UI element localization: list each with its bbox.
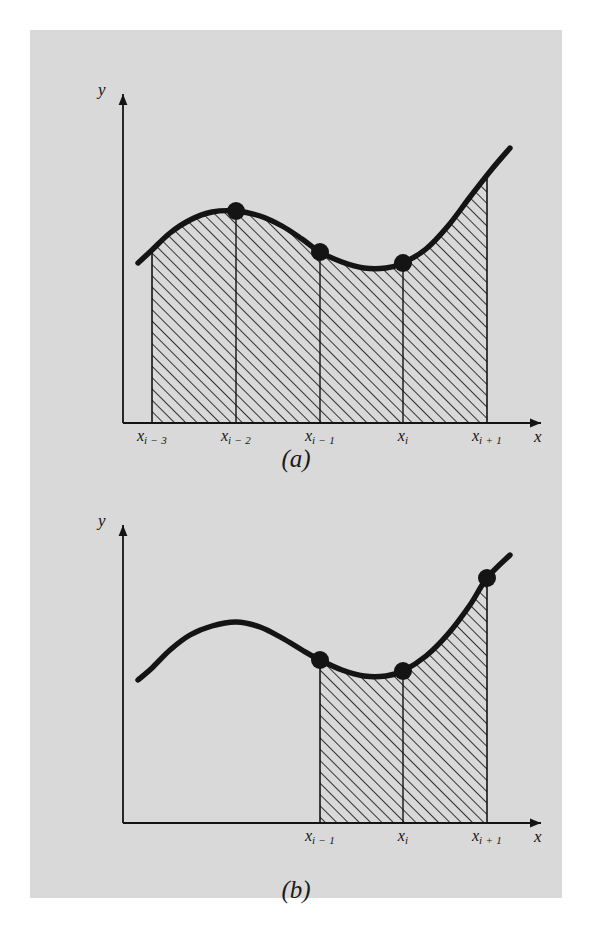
axis-y-label-b: y xyxy=(98,511,106,531)
figure-page: xi − 3 xi − 2 xi − 1 xi xi + 1 x y (a) xyxy=(0,0,590,949)
tick-label-b-0: xi − 1 xyxy=(305,827,335,846)
node-marker xyxy=(394,662,412,680)
node-marker xyxy=(311,651,329,669)
axis-x-label-b: x xyxy=(534,827,542,847)
tick-label-b-2: xi + 1 xyxy=(472,827,502,846)
figure-plate: xi − 3 xi − 2 xi − 1 xi xi + 1 x y (a) xyxy=(30,30,562,898)
tick-label-b-1: xi xyxy=(398,827,408,846)
node-marker xyxy=(478,569,496,587)
panel-caption-b: (b) xyxy=(30,876,562,904)
panel-b-plot xyxy=(30,30,562,898)
